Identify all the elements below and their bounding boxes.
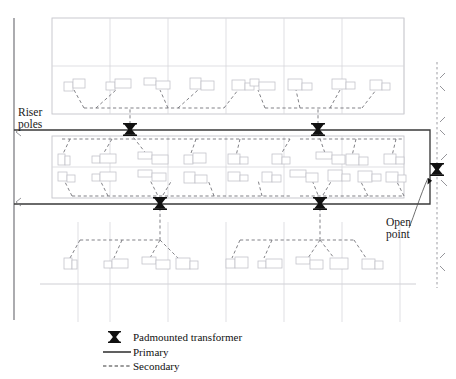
house-symbol — [272, 154, 290, 164]
transformer-icon — [108, 331, 121, 343]
service-drop — [308, 240, 320, 258]
house-symbol — [184, 172, 207, 183]
service-drop — [264, 240, 272, 258]
legend: Padmounted transformer Primary Secondary — [103, 331, 242, 372]
service-drop — [392, 139, 396, 156]
legend-label-primary: Primary — [133, 346, 169, 358]
house-symbol — [290, 170, 318, 182]
house-symbol — [138, 152, 168, 164]
service-drop — [352, 139, 356, 156]
house-symbol — [190, 78, 214, 90]
service-drop — [114, 240, 122, 258]
distribution-diagram: Riser poles Open point Padmounted transf… — [0, 0, 456, 379]
house-symbol — [316, 152, 345, 164]
secondary-bottom-block — [70, 208, 366, 258]
house-symbol — [226, 257, 248, 268]
riser-poles-label-line1: Riser — [18, 106, 42, 118]
house-symbol — [92, 172, 116, 181]
service-drop — [232, 240, 240, 258]
street-grid — [40, 18, 416, 322]
house-symbol — [228, 154, 248, 164]
house-symbol — [104, 259, 128, 268]
legend-label-transformer: Padmounted transformer — [133, 331, 242, 343]
service-drop — [258, 90, 265, 108]
service-drop — [360, 180, 368, 196]
service-drop — [208, 180, 214, 196]
open-point-tick-upper — [440, 73, 445, 91]
riser-pole-icon — [16, 198, 21, 206]
house-symbol — [176, 258, 198, 269]
legend-item-padmounted-transformer: Padmounted transformer — [108, 331, 242, 343]
service-drop — [150, 240, 160, 258]
house-symbol — [346, 154, 368, 165]
house-symbol — [64, 258, 77, 269]
house-symbol — [288, 79, 312, 90]
service-drop — [74, 90, 84, 108]
house-symbol — [228, 172, 248, 181]
house-symbol — [262, 172, 281, 182]
open-point-label-line2: point — [386, 228, 410, 241]
service-drop — [320, 240, 334, 258]
padmounted-transformer-open-point[interactable] — [430, 163, 444, 176]
house-symbol — [64, 79, 85, 91]
service-drop — [102, 139, 112, 156]
service-drop — [280, 139, 290, 156]
service-drop — [236, 139, 240, 156]
diagram-canvas: Riser poles Open point Padmounted transf… — [0, 0, 456, 379]
service-drop — [354, 240, 366, 258]
riser-pole-bottom — [16, 198, 21, 206]
service-drop — [160, 90, 168, 108]
secondary-middle-block — [62, 133, 404, 200]
service-drop — [258, 180, 262, 196]
open-point-leader — [409, 178, 432, 228]
secondary-top-block — [74, 90, 376, 130]
house-symbol — [92, 154, 116, 163]
riser-pole-group — [16, 128, 21, 206]
service-drop — [62, 139, 70, 156]
service-drop — [330, 90, 340, 108]
service-drop — [160, 240, 178, 258]
house-symbol — [370, 80, 390, 90]
service-drop — [362, 90, 376, 108]
legend-item-primary: Primary — [103, 346, 169, 358]
riser-poles-label-line2: poles — [18, 118, 43, 131]
legend-item-secondary: Secondary — [103, 360, 180, 372]
house-symbol — [138, 170, 166, 181]
house-symbol — [330, 258, 348, 269]
house-symbol — [144, 78, 170, 89]
service-drop — [100, 180, 108, 196]
service-drop — [70, 240, 80, 258]
house-symbol — [58, 172, 75, 182]
service-drop — [396, 180, 404, 196]
house-symbol — [258, 259, 282, 268]
service-drop — [96, 90, 116, 108]
house-symbol — [328, 170, 350, 181]
legend-label-secondary: Secondary — [133, 360, 180, 372]
service-drop — [64, 180, 72, 196]
house-symbol — [296, 257, 323, 269]
service-drop — [178, 90, 198, 108]
house-symbol — [384, 154, 404, 164]
house-symbol — [142, 257, 170, 269]
house-symbol — [358, 171, 381, 182]
house-symbol — [184, 153, 206, 164]
service-drop — [296, 90, 300, 108]
open-point-tick-lower — [440, 253, 445, 271]
annotation-open-point: Open point — [386, 216, 411, 241]
house-symbol — [386, 172, 406, 182]
open-point-tick-mid — [440, 117, 445, 135]
house-symbol — [58, 154, 70, 165]
house-symbol — [362, 259, 383, 269]
house-symbol — [332, 79, 355, 89]
annotation-riser-poles: Riser poles — [18, 106, 43, 131]
open-point-arrow-line — [409, 178, 428, 228]
open-point-tick-transformer — [441, 154, 447, 186]
